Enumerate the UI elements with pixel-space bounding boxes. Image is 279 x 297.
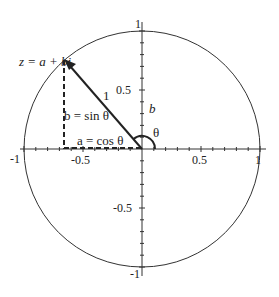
b-axis-label: b bbox=[149, 101, 156, 116]
cos-label: a = cos θ bbox=[77, 133, 123, 148]
x-tick-label: 0.5 bbox=[192, 153, 207, 167]
sin-label: b = sin θ bbox=[64, 108, 109, 123]
unit-circle-diagram: z = a + bi 1 b = sin θ a = cos θ b θ -1 … bbox=[0, 0, 279, 297]
x-tick-label: -0.5 bbox=[71, 153, 90, 167]
y-tick-label: -0.5 bbox=[113, 201, 132, 215]
radius-label: 1 bbox=[103, 88, 110, 103]
y-tick-label: 1 bbox=[135, 17, 141, 31]
angle-label: θ bbox=[153, 125, 159, 140]
y-tick-label: -1 bbox=[130, 267, 140, 281]
x-tick-label: 1 bbox=[255, 153, 261, 167]
y-tick-label: 0.5 bbox=[116, 83, 131, 97]
x-tick-label: -1 bbox=[10, 152, 20, 166]
point-label: z = a + bi bbox=[18, 54, 72, 69]
